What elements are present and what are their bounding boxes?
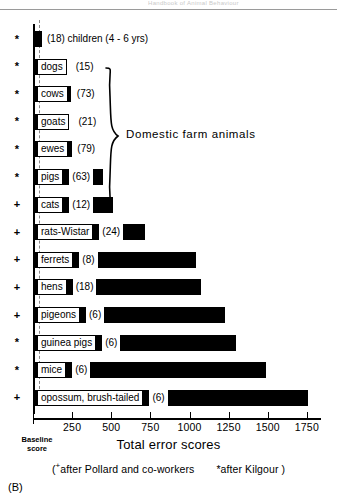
bar-label-group: hens(18) (37, 279, 96, 295)
row-source-marker: + (10, 219, 24, 245)
bar (33, 31, 42, 47)
x-axis-tick (150, 412, 151, 420)
row-source-marker: + (10, 247, 24, 273)
footnote-pollard-text: after Pollard and co-workers (60, 463, 194, 475)
bar-sample-size: (8) (79, 252, 97, 268)
x-axis-tick-label: 750 (141, 421, 159, 433)
bar-species-label: goats (37, 114, 69, 130)
x-axis-tick-label: 500 (102, 421, 120, 433)
bar-sample-size: (18) children (4 - 6 yrs) (44, 31, 151, 47)
bar-sample-size: (15) (73, 59, 97, 75)
bar-label-group: mice(6) (37, 362, 90, 378)
bar-label-group: cats(12) (37, 197, 93, 213)
bar-row: *cows(73) (0, 81, 337, 107)
x-axis-tick-label: 1750 (295, 421, 319, 433)
row-source-marker: * (10, 330, 24, 356)
x-axis-tick (111, 412, 112, 420)
bar-label-group: ferrets(8) (37, 252, 98, 268)
row-source-marker: * (10, 136, 24, 162)
x-axis-origin-tick (33, 412, 34, 424)
bar-species-label: dogs (37, 59, 67, 75)
x-axis-tick (268, 412, 269, 420)
row-source-marker: + (10, 385, 24, 411)
bar-sample-size: (18) (73, 279, 97, 295)
bar-species-label: hens (37, 279, 67, 295)
bar-label-group: pigs(63) (37, 169, 93, 185)
bar-species-label: cats (37, 197, 63, 213)
x-axis-tick (72, 412, 73, 420)
bar-row: +rats-Wistar(24) (0, 219, 337, 245)
bar-row: +pigeons(6) (0, 302, 337, 328)
bar-sample-size: (6) (72, 362, 90, 378)
bar-row: *mice(6) (0, 357, 337, 383)
bar-species-label: rats-Wistar (37, 224, 93, 240)
bar-label-group: ewes(79) (37, 141, 98, 157)
bar-label-group: dogs(15) (37, 59, 96, 75)
panel-label: (B) (8, 481, 23, 493)
bar-species-label: opossum, brush-tailed (37, 390, 143, 406)
bar-row: *guinea pigs(6) (0, 330, 337, 356)
group-label-domestic-farm-animals: Domestic farm animals (126, 128, 256, 140)
x-axis-tick-label: 1000 (177, 421, 201, 433)
bar-sample-size: (6) (149, 390, 167, 406)
bar-sample-size: (12) (69, 197, 93, 213)
bar-label-group: goats(21) (37, 114, 99, 130)
row-source-marker: + (10, 274, 24, 300)
bar-label-group: rats-Wistar(24) (37, 224, 123, 240)
bar-row: *dogs(15) (0, 54, 337, 80)
x-axis-title: Total error scores (0, 437, 337, 452)
bar-species-label: mice (37, 362, 66, 378)
x-axis-tick-label: 1250 (217, 421, 241, 433)
row-source-marker: * (10, 164, 24, 190)
bar-label-group: cows(73) (37, 86, 98, 102)
bar-species-label: pigeons (37, 307, 80, 323)
bar-row: +ferrets(8) (0, 247, 337, 273)
x-axis-line (33, 418, 321, 420)
row-source-marker: + (10, 302, 24, 328)
bar-sample-size: (79) (74, 141, 98, 157)
figure-footnote: (+after Pollard and co-workers*after Kil… (0, 461, 337, 475)
x-axis-tick-label: 1500 (256, 421, 280, 433)
bar-row: *ewes(79) (0, 136, 337, 162)
bar-sample-size: (6) (102, 335, 120, 351)
x-axis-tick-label: 250 (63, 421, 81, 433)
row-source-marker: * (10, 109, 24, 135)
bar-sample-size: (73) (74, 86, 98, 102)
bar-sample-size: (21) (75, 114, 99, 130)
bar-row: +opossum, brush-tailed(6) (0, 385, 337, 411)
x-axis-tick (229, 412, 230, 420)
row-source-marker: * (10, 357, 24, 383)
footnote-kilgour-text: after Kilgour ) (221, 463, 286, 475)
chart-plot-area: *(18) children (4 - 6 yrs)*dogs(15)*cows… (0, 20, 337, 415)
row-source-marker: * (10, 81, 24, 107)
bar-row: *pigs(63) (0, 164, 337, 190)
bar-sample-size: (6) (86, 307, 104, 323)
bar-sample-size: (63) (69, 169, 93, 185)
bar-label-group: guinea pigs(6) (37, 335, 120, 351)
x-axis-tick (190, 412, 191, 420)
bar-species-label: ferrets (37, 252, 73, 268)
bar-species-label: guinea pigs (37, 335, 96, 351)
bar-row: *(18) children (4 - 6 yrs) (0, 26, 337, 52)
row-source-marker: * (10, 26, 24, 52)
bar-row: +hens(18) (0, 274, 337, 300)
header-rule (0, 9, 337, 10)
bar-row: +cats(12) (0, 192, 337, 218)
header-ghost-text: Handbook of Animal Behaviour (148, 0, 288, 7)
bar-species-label: cows (37, 86, 68, 102)
group-brace (104, 66, 120, 206)
bar-label-group: (18) children (4 - 6 yrs) (44, 31, 151, 47)
bar-label-group: pigeons(6) (37, 307, 104, 323)
bar-species-label: ewes (37, 141, 68, 157)
row-source-marker: + (10, 192, 24, 218)
bar-label-group: opossum, brush-tailed(6) (37, 390, 168, 406)
bar-sample-size: (24) (99, 224, 123, 240)
row-source-marker: * (10, 54, 24, 80)
x-axis-tick (307, 412, 308, 420)
bar-species-label: pigs (37, 169, 63, 185)
